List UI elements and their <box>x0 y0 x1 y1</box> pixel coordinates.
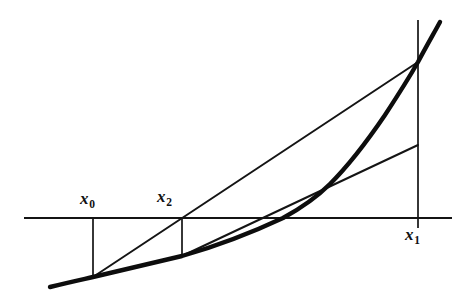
axis-label-x1-subscript: 1 <box>414 234 420 246</box>
axis-label-x2-base: x <box>157 187 166 206</box>
axis-label-x2-subscript: 2 <box>166 196 172 208</box>
axis-label-x1-base: x <box>405 225 414 244</box>
axis-label-x2: x2 <box>157 188 171 205</box>
secant-line-2 <box>182 145 418 256</box>
secant-line-1 <box>93 62 418 277</box>
function-curve <box>50 22 440 287</box>
axis-label-x0-subscript: 0 <box>89 198 95 210</box>
figure-container: x0 x2 x1 <box>0 0 471 300</box>
axis-label-x0-base: x <box>80 189 89 208</box>
axis-label-x1: x1 <box>405 226 419 243</box>
secant-method-figure <box>0 0 471 300</box>
axis-label-x0: x0 <box>80 190 94 207</box>
